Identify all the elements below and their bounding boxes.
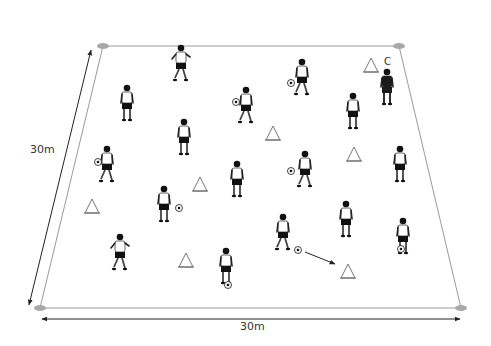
ball-icon: [295, 247, 302, 254]
arm: [231, 257, 232, 266]
shirt: [159, 193, 169, 204]
arm: [405, 155, 406, 164]
foot: [395, 180, 399, 182]
legs: [124, 109, 130, 119]
arm: [408, 227, 409, 236]
legs: [240, 111, 251, 121]
shirt: [122, 92, 132, 103]
legs: [277, 238, 288, 248]
shirt: [102, 153, 112, 164]
ball-icon: [225, 282, 232, 289]
foot: [238, 121, 242, 123]
foot: [347, 235, 351, 237]
player: [238, 87, 253, 124]
shirt: [221, 255, 231, 266]
ball-icon: [288, 168, 295, 175]
player: [121, 85, 133, 122]
shorts: [176, 63, 186, 69]
foot: [294, 93, 298, 95]
coach-label: C: [384, 56, 391, 67]
drill-diagram: 30m 30m C: [0, 0, 491, 346]
shorts: [382, 87, 392, 93]
pass-arrow-line: [305, 252, 335, 264]
player: [178, 119, 190, 156]
foot: [382, 103, 386, 105]
foot: [232, 195, 236, 197]
legs: [296, 83, 307, 93]
arm: [340, 210, 341, 219]
foot: [128, 119, 132, 121]
shorts: [278, 232, 288, 238]
arm: [351, 210, 352, 219]
arm: [231, 170, 232, 179]
head: [280, 214, 287, 221]
shirt: [179, 126, 189, 137]
shorts: [115, 252, 125, 258]
foot: [388, 103, 392, 105]
cone-icon: [179, 253, 193, 267]
arm: [158, 195, 159, 204]
shirt: [278, 221, 288, 232]
head: [400, 218, 407, 225]
foot: [185, 153, 189, 155]
arm: [178, 128, 179, 137]
head: [302, 151, 309, 158]
players: [95, 45, 410, 289]
arm: [132, 94, 133, 103]
arm: [296, 68, 297, 77]
shorts: [300, 169, 310, 175]
arm: [288, 223, 289, 232]
player: [111, 234, 129, 270]
pass-arrow: [305, 252, 335, 264]
foot: [404, 252, 408, 254]
shorts: [179, 137, 189, 143]
corner-marker: [455, 305, 467, 311]
arm: [111, 243, 115, 248]
foot: [123, 268, 127, 270]
shirt: [382, 76, 392, 87]
arm: [397, 227, 398, 236]
shirt: [341, 208, 351, 219]
head: [243, 87, 250, 94]
foot: [249, 121, 253, 123]
coach: [381, 69, 393, 106]
arm: [307, 68, 308, 77]
ball-icon: [176, 205, 183, 212]
bottom-dimension-label: 30m: [240, 320, 265, 333]
arm: [121, 94, 122, 103]
arm: [125, 243, 129, 246]
foot: [112, 268, 116, 270]
legs: [161, 210, 167, 220]
head: [343, 201, 350, 208]
player: [347, 93, 359, 130]
shorts: [232, 179, 242, 185]
cone-icon: [266, 126, 280, 140]
corner-marker: [393, 43, 405, 49]
shorts: [241, 105, 251, 111]
player: [340, 201, 352, 238]
legs: [343, 225, 349, 235]
shorts: [122, 103, 132, 109]
foot: [99, 180, 103, 182]
head: [384, 69, 391, 76]
shorts: [221, 266, 231, 272]
head: [178, 45, 185, 52]
foot: [184, 79, 188, 81]
legs: [114, 258, 125, 268]
arm: [186, 54, 190, 57]
foot: [348, 127, 352, 129]
foot: [341, 235, 345, 237]
cone-icon: [193, 177, 207, 191]
ball-icon: [95, 159, 102, 166]
legs: [384, 93, 390, 103]
foot: [275, 248, 279, 250]
player: [220, 248, 232, 284]
foot: [308, 185, 312, 187]
arm: [112, 155, 113, 164]
arm: [392, 78, 393, 87]
arm: [242, 170, 243, 179]
arm: [220, 257, 221, 266]
player: [297, 151, 312, 188]
shorts: [398, 236, 408, 242]
arm: [358, 102, 359, 111]
